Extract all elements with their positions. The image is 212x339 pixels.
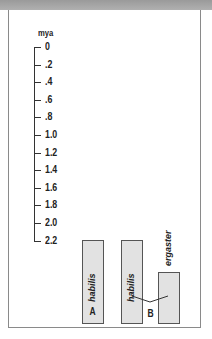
group-b-bracket — [0, 0, 212, 339]
